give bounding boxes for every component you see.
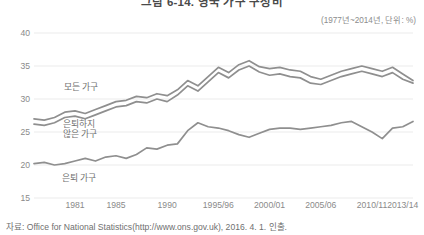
series-label-retired-households: 은퇴 가구 — [62, 173, 96, 183]
series-line-2 — [34, 66, 413, 125]
x-tick-label: 2000/01 — [254, 201, 285, 210]
x-tick-label: 2013/14 — [387, 201, 418, 210]
y-tick-label: 40 — [4, 29, 30, 38]
y-tick-label: 30 — [4, 95, 30, 104]
y-tick-label: 20 — [4, 161, 30, 170]
x-tick-label: 1995/96 — [203, 201, 234, 210]
x-tick-label: 1981 — [65, 201, 84, 210]
chart-subtitle-unit-note: (1977년~2014년, 단위: %) — [321, 13, 416, 25]
source-note: 자료: Office for National Statistics(http:… — [6, 220, 287, 232]
x-axis-tick-labels: 1981198519901995/962000/012005/062010/11… — [0, 201, 424, 215]
x-tick-label: 2005/06 — [305, 201, 336, 210]
series-label-non-retired-households: 은퇴하지 않은 가구 — [63, 119, 97, 140]
x-tick-label: 1990 — [158, 201, 177, 210]
y-axis-tick-labels: 403530252015 — [0, 33, 30, 198]
x-tick-label: 2010/11 — [357, 201, 387, 210]
y-tick-label: 35 — [4, 62, 30, 71]
series-label-all-households: 모든 가구 — [64, 82, 98, 92]
x-tick-label: 1985 — [106, 201, 125, 210]
chart-title: 그림 6-14. 영국 가구 구성비 — [0, 0, 424, 9]
y-tick-label: 25 — [4, 128, 30, 137]
chart-page: 그림 6-14. 영국 가구 구성비 (1977년~2014년, 단위: %) … — [0, 0, 424, 235]
